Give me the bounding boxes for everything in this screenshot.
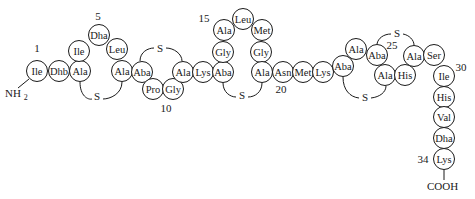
position-number: 15 <box>199 12 211 24</box>
residue-name: Gly <box>253 47 270 58</box>
residue-34: Lys <box>434 149 455 170</box>
residue-30: Ile <box>434 66 455 87</box>
residue-18: Gly <box>251 42 272 63</box>
residue-7: Ala <box>112 61 133 82</box>
residue-2: Dhb <box>49 61 70 82</box>
residue-29: Ser <box>424 45 445 66</box>
residue-name: Aba <box>133 67 151 78</box>
residue-name: Gly <box>215 47 232 58</box>
residue-name: His <box>437 92 452 103</box>
residue-name: His <box>398 70 413 81</box>
residue-32: Val <box>434 107 455 128</box>
n-terminus-text: NH <box>5 87 21 99</box>
residue-name: Ala <box>175 67 191 78</box>
n-terminus-label: NH 2 <box>5 87 28 102</box>
residue-name: Aba <box>214 67 232 78</box>
residue-name: Dha <box>90 30 108 41</box>
residue-11: Ala <box>173 62 194 83</box>
residue-33: Dha <box>434 128 455 149</box>
residue-name: Asn <box>275 67 293 78</box>
residue-name: Ala <box>348 44 364 55</box>
residue-23: Aba <box>333 56 354 77</box>
residue-name: Ile <box>438 71 449 82</box>
residue-name: Ala <box>72 66 88 77</box>
residue-name: Val <box>437 112 451 123</box>
residue-name: Dha <box>435 133 453 144</box>
sulfur-label: S <box>394 27 400 39</box>
peptide-diagram: SSSSS IleDhbAlaIleDhaLeuAlaAbaProGlyAlaL… <box>0 0 475 199</box>
position-number: 10 <box>161 102 173 114</box>
residue-name: Ile <box>73 46 84 57</box>
residue-name: Ala <box>114 66 130 77</box>
residue-name: Ala <box>406 51 422 62</box>
terminal-bonds <box>18 79 444 180</box>
sulfur-label: S <box>94 90 100 102</box>
residue-name: Lys <box>195 67 210 78</box>
residue-name: Ala <box>216 25 232 36</box>
residue-15: Ala <box>214 20 235 41</box>
position-number: 5 <box>95 10 101 22</box>
residue-3: Ala <box>70 61 91 82</box>
residue-21: Met <box>293 62 314 83</box>
residue-6: Leu <box>107 39 128 60</box>
residue-name: Ala <box>377 70 393 81</box>
residue-name: Leu <box>235 14 252 25</box>
residue-12: Lys <box>193 62 214 83</box>
residue-name: Lys <box>436 154 451 165</box>
residue-28: Ala <box>404 46 425 67</box>
residue-name: Met <box>254 25 271 36</box>
position-number: 25 <box>387 39 399 51</box>
residue-name: Ile <box>31 66 42 77</box>
residue-19: Ala <box>252 62 273 83</box>
sulfur-label: S <box>239 89 245 101</box>
residue-20: Asn <box>273 62 294 83</box>
position-number: 34 <box>418 153 430 165</box>
residue-4: Ile <box>69 41 90 62</box>
residue-name: Leu <box>109 44 126 55</box>
residue-27: His <box>395 65 416 86</box>
residue-name: Dhb <box>50 66 68 77</box>
residue-name: Aba <box>368 50 386 61</box>
residue-name: Pro <box>146 84 161 95</box>
residue-name: Aba <box>334 61 352 72</box>
residue-name: Lys <box>315 67 330 78</box>
residue-16: Leu <box>233 9 254 30</box>
residue-22: Lys <box>313 62 334 83</box>
residue-name: Gly <box>165 84 182 95</box>
residue-31: His <box>434 87 455 108</box>
residue-26: Ala <box>375 65 396 86</box>
residue-24: Ala <box>346 39 367 60</box>
sulfur-label: S <box>362 91 368 103</box>
peptide-structure-svg: SSSSS IleDhbAlaIleDhaLeuAlaAbaProGlyAlaL… <box>0 0 475 199</box>
residue-25: Aba <box>367 45 388 66</box>
subscript: 2 <box>24 93 28 102</box>
residue-1: Ile <box>27 61 48 82</box>
position-number: 30 <box>456 61 468 73</box>
residue-name: Ala <box>254 67 270 78</box>
c-terminus-label: COOH <box>427 180 458 192</box>
residue-name: Ser <box>427 50 442 61</box>
position-number: 20 <box>276 83 288 95</box>
residue-name: Met <box>295 67 312 78</box>
residue-13: Aba <box>213 62 234 83</box>
position-number: 1 <box>34 42 40 54</box>
residue-5: Dha <box>89 25 110 46</box>
residue-9: Pro <box>143 79 164 100</box>
residue-14: Gly <box>213 42 234 63</box>
thioether-bridge <box>80 82 122 99</box>
sulfur-label: S <box>157 42 163 54</box>
residue-17: Met <box>252 20 273 41</box>
